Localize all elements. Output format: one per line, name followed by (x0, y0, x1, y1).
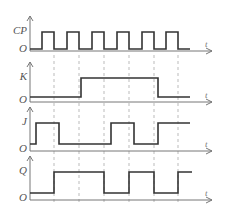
signal-k: KOt (19, 62, 212, 105)
origin-label: O (19, 191, 27, 203)
origin-label: O (19, 42, 27, 54)
signal-panels: CPOtKOtJOtQOt (13, 16, 212, 203)
signal-label: CP (13, 24, 27, 36)
waveform-cp (30, 32, 190, 49)
signal-label: J (22, 115, 28, 127)
timing-diagram: CPOtKOtJOtQOt (0, 0, 228, 214)
time-label: t (205, 188, 208, 198)
time-label: t (205, 39, 208, 49)
origin-label: O (19, 93, 27, 105)
signal-q: QOt (19, 156, 212, 203)
signal-cp: CPOt (13, 16, 212, 54)
time-label: t (205, 90, 208, 100)
origin-label: O (19, 142, 27, 154)
waveform-q (30, 172, 192, 193)
signal-j: JOt (19, 107, 212, 154)
signal-label: K (19, 70, 28, 82)
time-label: t (205, 139, 208, 149)
signal-label: Q (19, 164, 27, 176)
